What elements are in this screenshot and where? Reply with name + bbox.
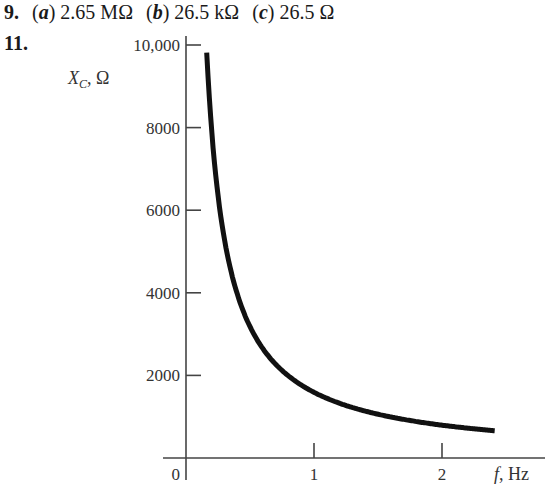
x-axis-label: f, Hz — [494, 464, 529, 484]
y-tick-label: 2000 — [146, 366, 180, 385]
x-tick-label: 1 — [310, 465, 319, 484]
x-tick-label: 0 — [172, 465, 181, 484]
chart-axes — [163, 36, 545, 480]
y-axis-label: XC, Ω — [67, 68, 109, 91]
reactance-chart: 200040006000800010,000012 XC, Ω f, Hz — [0, 0, 545, 486]
y-tick-label: 10,000 — [133, 36, 180, 55]
y-tick-label: 4000 — [146, 284, 180, 303]
x-tick-label: 2 — [438, 465, 447, 484]
reactance-curve — [207, 53, 495, 431]
y-tick-label: 6000 — [146, 201, 180, 220]
y-tick-label: 8000 — [146, 119, 180, 138]
